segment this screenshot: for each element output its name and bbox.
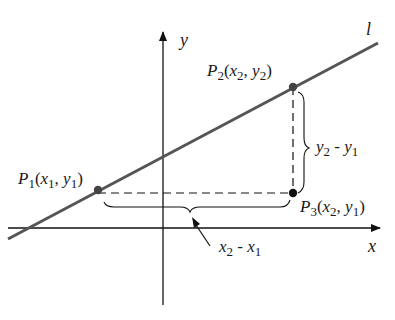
x-axis-label: x bbox=[367, 236, 376, 256]
y-axis-label: y bbox=[178, 30, 188, 50]
rise-brace bbox=[298, 92, 309, 193]
line-label: l bbox=[366, 19, 371, 39]
rise-label: y2 - y1 bbox=[314, 137, 358, 159]
point-p2 bbox=[289, 83, 297, 91]
run-brace bbox=[104, 200, 290, 212]
run-label: x2 - x1 bbox=[218, 237, 261, 259]
slope-diagram: y x l P1(x1, y1) P2(x2, y2) P3(x2, y1) y… bbox=[0, 0, 395, 320]
p1-label: P1(x1, y1) bbox=[17, 169, 83, 191]
point-p1 bbox=[94, 186, 102, 194]
point-p3 bbox=[289, 189, 297, 197]
p2-label: P2(x2, y2) bbox=[206, 61, 272, 83]
run-pointer-head bbox=[192, 217, 200, 228]
p3-label: P3(x2, y1) bbox=[299, 197, 365, 219]
